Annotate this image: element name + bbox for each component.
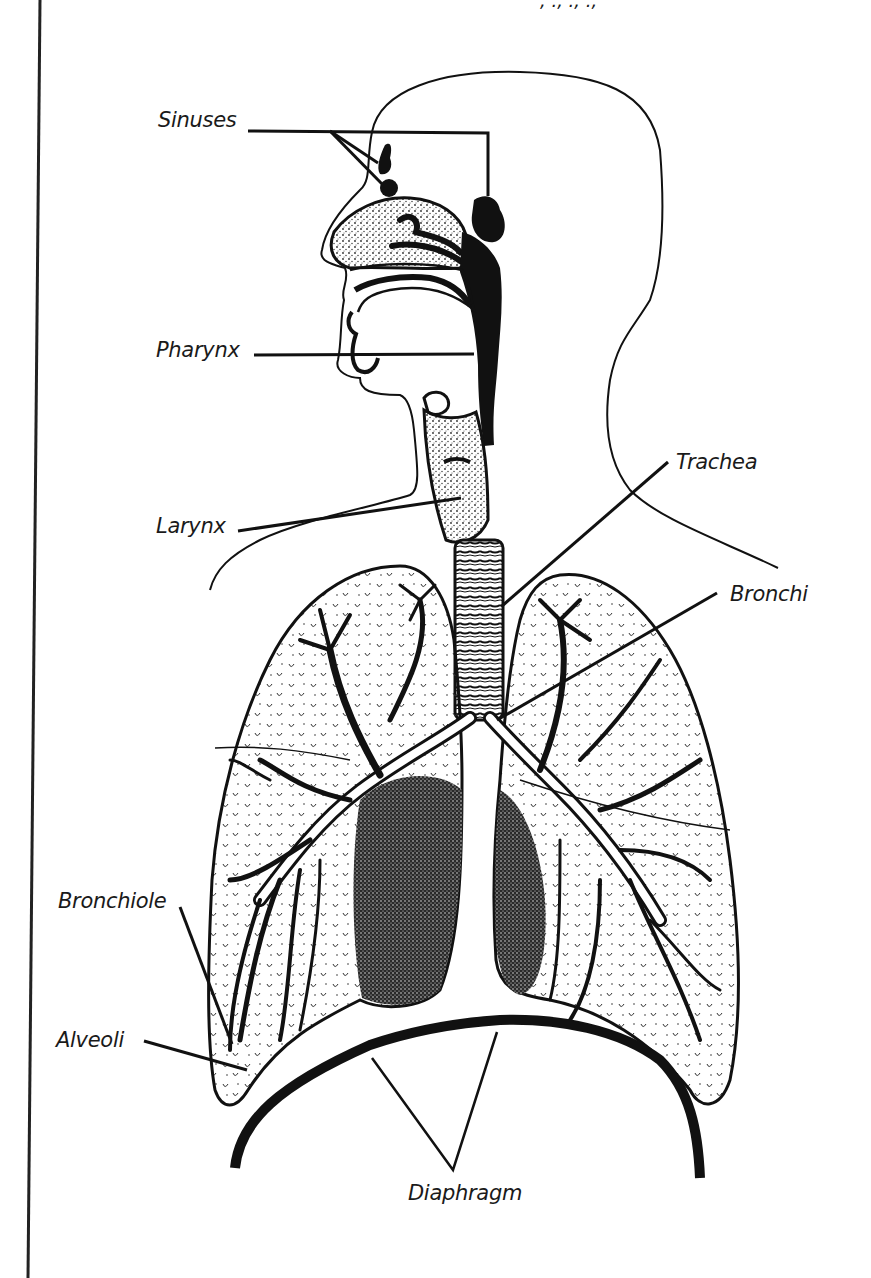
page-border-line	[28, 0, 40, 1278]
label-bronchiole: Bronchiole	[58, 891, 167, 912]
label-sinuses: Sinuses	[158, 110, 237, 131]
leader-line-pharynx	[254, 354, 474, 355]
label-pharynx: Pharynx	[156, 340, 240, 361]
sphenoid-sinus	[472, 196, 505, 242]
label-diaphragm: Diaphragm	[408, 1183, 522, 1204]
trachea-tube	[455, 540, 503, 720]
label-larynx: Larynx	[156, 516, 226, 537]
nasal-cavity	[331, 198, 468, 269]
label-alveoli: Alveoli	[56, 1030, 124, 1051]
leader-line-larynx	[238, 498, 461, 531]
diaphragm-muscle	[235, 1020, 700, 1178]
larynx-body	[424, 410, 488, 542]
pharynx-tube	[460, 232, 502, 446]
leader-line-sinuses	[330, 131, 385, 187]
label-trachea: Trachea	[676, 452, 757, 473]
label-bronchi: Bronchi	[730, 584, 808, 605]
leader-line-diaphragm	[372, 1032, 497, 1170]
respiratory-system-diagram: , ., ., .,	[0, 0, 871, 1278]
anatomy-illustration	[0, 0, 871, 1278]
lips-jaw	[349, 312, 378, 372]
ethmoid-sinus	[380, 179, 398, 197]
palate	[355, 277, 470, 305]
frontal-sinus	[378, 144, 391, 175]
